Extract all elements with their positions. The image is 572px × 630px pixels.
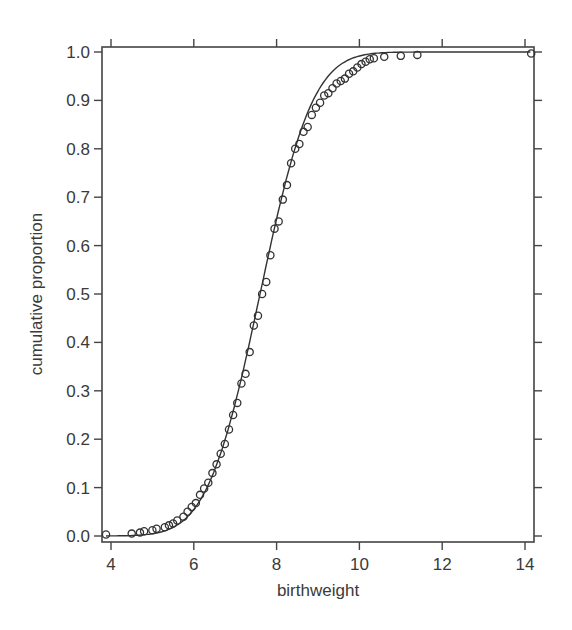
data-point: [397, 52, 404, 59]
cdf-chart: 468101214 0.00.10.20.30.40.50.60.70.80.9…: [0, 0, 572, 630]
data-point: [149, 527, 156, 534]
y-tick-label: 0.9: [66, 91, 90, 110]
data-point: [308, 111, 315, 118]
data-point: [304, 123, 311, 130]
data-point: [263, 278, 270, 285]
plot-frame: [102, 47, 534, 542]
data-point: [381, 53, 388, 60]
y-tick-label: 0.1: [66, 479, 90, 498]
y-axis-title: cumulative proportion: [27, 213, 46, 376]
x-tick-label: 8: [272, 555, 281, 574]
y-tick-label: 0.6: [66, 237, 90, 256]
normal-cdf-line: [106, 52, 530, 536]
y-tick-label: 0.5: [66, 285, 90, 304]
x-tick-label: 12: [433, 555, 452, 574]
y-tick-label: 0.0: [66, 527, 90, 546]
y-tick-label: 0.4: [66, 333, 90, 352]
x-axis: 468101214: [106, 39, 534, 574]
x-tick-label: 10: [350, 555, 369, 574]
x-tick-label: 4: [106, 555, 115, 574]
data-point: [370, 55, 377, 62]
y-tick-label: 0.7: [66, 188, 90, 207]
data-point: [312, 104, 319, 111]
y-tick-label: 0.2: [66, 430, 90, 449]
plot-border: [102, 47, 534, 542]
data-point: [329, 85, 336, 92]
data-point: [102, 531, 109, 538]
y-tick-label: 0.3: [66, 382, 90, 401]
y-tick-label: 1.0: [66, 43, 90, 62]
data-point: [141, 528, 148, 535]
data-point: [279, 196, 286, 203]
data-point: [153, 525, 160, 532]
data-point: [184, 508, 191, 515]
data-points: [102, 50, 534, 538]
fitted-curve: [106, 52, 530, 536]
x-tick-label: 14: [516, 555, 535, 574]
x-axis-title: birthweight: [277, 581, 359, 600]
data-point: [180, 513, 187, 520]
y-axis: 0.00.10.20.30.40.50.60.70.80.91.0: [66, 43, 542, 546]
x-tick-label: 6: [189, 555, 198, 574]
data-point: [316, 99, 323, 106]
y-tick-label: 0.8: [66, 140, 90, 159]
